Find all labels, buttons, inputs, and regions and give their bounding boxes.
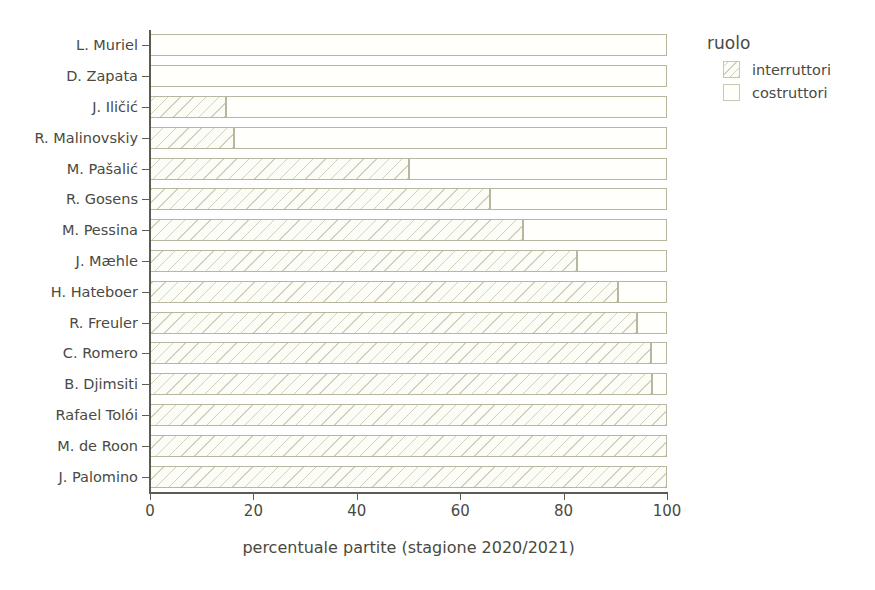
- y-tick-label: R. Gosens: [0, 191, 138, 207]
- bar-segment-costruttori: [150, 65, 667, 87]
- y-tick-mark: [142, 230, 150, 231]
- x-axis-title: percentuale partite (stagione 2020/2021): [149, 538, 668, 557]
- y-tick-label: M. Pašalić: [0, 161, 138, 177]
- bar-row: [150, 158, 667, 180]
- bar-row: [150, 34, 667, 56]
- y-tick-mark: [142, 323, 150, 324]
- y-tick-mark: [142, 45, 150, 46]
- bar-segment-interruttori: [150, 188, 490, 210]
- y-tick-mark: [142, 169, 150, 170]
- y-tick-label: B. Djimsiti: [0, 376, 138, 392]
- legend-title: ruolo: [707, 33, 867, 53]
- legend-item-label: costruttori: [752, 85, 827, 101]
- y-tick-label: R. Malinovskiy: [0, 130, 138, 146]
- bar-segment-costruttori: [226, 96, 667, 118]
- bar-segment-costruttori: [523, 219, 667, 241]
- bar-row: [150, 373, 667, 395]
- y-tick-label: C. Romero: [0, 345, 138, 361]
- bar-segment-interruttori: [150, 342, 651, 364]
- bar-segment-costruttori: [234, 127, 667, 149]
- bar-row: [150, 404, 667, 426]
- y-tick-mark: [142, 292, 150, 293]
- x-tick-label: 80: [554, 502, 573, 520]
- bar-segment-interruttori: [150, 404, 667, 426]
- x-tick-mark: [253, 492, 254, 500]
- x-tick-label: 20: [244, 502, 263, 520]
- bar-row: [150, 342, 667, 364]
- x-axis-line: [149, 492, 668, 494]
- bar-segment-interruttori: [150, 373, 652, 395]
- legend-items: interruttoricostruttori: [707, 61, 867, 101]
- bar-row: [150, 127, 667, 149]
- bar-row: [150, 466, 667, 488]
- bar-segment-interruttori: [150, 466, 667, 488]
- y-tick-label: J. Iličić: [0, 99, 138, 115]
- bar-row: [150, 188, 667, 210]
- x-tick-label: 40: [347, 502, 366, 520]
- bar-segment-costruttori: [490, 188, 667, 210]
- hatched-swatch: [723, 61, 740, 78]
- x-tick-mark: [564, 492, 565, 500]
- y-tick-mark: [142, 446, 150, 447]
- y-tick-label: J. Mæhle: [0, 253, 138, 269]
- x-tick-mark: [357, 492, 358, 500]
- bar-segment-costruttori: [651, 342, 667, 364]
- bar-row: [150, 96, 667, 118]
- y-tick-label: H. Hateboer: [0, 284, 138, 300]
- x-tick-label: 100: [653, 502, 682, 520]
- x-tick-label: 60: [451, 502, 470, 520]
- x-tick-mark: [460, 492, 461, 500]
- bar-row: [150, 250, 667, 272]
- bar-segment-costruttori: [652, 373, 667, 395]
- x-tick-mark: [150, 492, 151, 500]
- bar-segment-costruttori: [150, 34, 667, 56]
- bar-segment-interruttori: [150, 219, 523, 241]
- y-tick-mark: [142, 76, 150, 77]
- y-tick-mark: [142, 261, 150, 262]
- legend-item-interruttori[interactable]: interruttori: [723, 61, 867, 78]
- y-tick-mark: [142, 415, 150, 416]
- y-tick-label: D. Zapata: [0, 68, 138, 84]
- bar-segment-costruttori: [637, 312, 667, 334]
- bar-row: [150, 281, 667, 303]
- bar-segment-costruttori: [618, 281, 667, 303]
- bar-segment-interruttori: [150, 96, 226, 118]
- bar-segment-costruttori: [577, 250, 667, 272]
- y-tick-label: L. Muriel: [0, 37, 138, 53]
- chart-legend: ruolo interruttoricostruttori: [707, 33, 867, 107]
- bar-segment-interruttori: [150, 435, 667, 457]
- y-tick-mark: [142, 199, 150, 200]
- x-tick-mark: [667, 492, 668, 500]
- bar-segment-interruttori: [150, 127, 234, 149]
- plain-swatch: [723, 84, 740, 101]
- x-tick-label: 0: [145, 502, 155, 520]
- bar-row: [150, 312, 667, 334]
- y-tick-label: M. de Roon: [0, 438, 138, 454]
- y-tick-label: Rafael Tolói: [0, 407, 138, 423]
- bar-segment-interruttori: [150, 250, 577, 272]
- y-tick-label: J. Palomino: [0, 469, 138, 485]
- y-tick-mark: [142, 477, 150, 478]
- bar-segment-costruttori: [409, 158, 667, 180]
- y-tick-label: M. Pessina: [0, 222, 138, 238]
- y-tick-mark: [142, 107, 150, 108]
- bar-segment-interruttori: [150, 312, 637, 334]
- bar-row: [150, 65, 667, 87]
- y-tick-mark: [142, 384, 150, 385]
- y-tick-mark: [142, 138, 150, 139]
- bar-row: [150, 219, 667, 241]
- chart-figure: L. MurielD. ZapataJ. IličićR. Malinovski…: [0, 0, 875, 590]
- legend-item-label: interruttori: [752, 62, 831, 78]
- y-tick-mark: [142, 353, 150, 354]
- legend-item-costruttori[interactable]: costruttori: [723, 84, 867, 101]
- bar-segment-interruttori: [150, 158, 409, 180]
- y-tick-label: R. Freuler: [0, 315, 138, 331]
- bar-segment-interruttori: [150, 281, 618, 303]
- bar-row: [150, 435, 667, 457]
- plot-area: [150, 30, 667, 492]
